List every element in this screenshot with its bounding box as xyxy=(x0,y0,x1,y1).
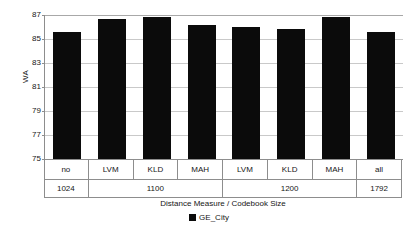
x-axis-distance-measure-band: noLVMKLDMAHLVMKLDMAHall xyxy=(44,160,402,180)
x-axis-category-label: KLD xyxy=(268,160,313,179)
x-axis-category-label: MAH xyxy=(313,160,358,179)
bar-cell xyxy=(45,15,90,159)
bar xyxy=(367,32,395,159)
bar-cell xyxy=(224,15,269,159)
bar-chart: WA 87858381797775 noLVMKLDMAHLVMKLDMAHal… xyxy=(0,0,418,229)
bar-cell xyxy=(269,15,314,159)
x-axis-group-label: 1024 xyxy=(44,180,89,197)
x-axis-category-label: KLD xyxy=(134,160,179,179)
legend-swatch-ge-city xyxy=(189,214,196,221)
y-axis-tick-label: 87 xyxy=(15,11,41,19)
bar-cell xyxy=(179,15,224,159)
bar xyxy=(232,27,260,159)
y-axis-tick-label: 77 xyxy=(15,131,41,139)
bar-cell xyxy=(358,15,403,159)
chart-legend: GE_City xyxy=(0,213,418,222)
x-axis-category-label: LVM xyxy=(223,160,268,179)
y-axis-tick-label: 75 xyxy=(15,155,41,163)
y-axis-tick-label: 79 xyxy=(15,107,41,115)
bar xyxy=(322,17,350,159)
y-axis-tick-label: 85 xyxy=(15,35,41,43)
bar-cell xyxy=(135,15,180,159)
x-axis-category-label: no xyxy=(44,160,89,179)
x-axis-category-label: MAH xyxy=(178,160,223,179)
bar xyxy=(53,32,81,159)
legend-label-ge-city: GE_City xyxy=(199,213,229,222)
x-axis-group-label: 1100 xyxy=(89,180,223,197)
y-axis-tick-label: 83 xyxy=(15,59,41,67)
x-axis-title: Distance Measure / Codebook Size xyxy=(44,199,402,208)
y-axis-tick-label: 81 xyxy=(15,83,41,91)
y-axis-tick-labels: 87858381797775 xyxy=(10,0,41,229)
bar xyxy=(143,17,171,159)
x-axis-category-label: LVM xyxy=(89,160,134,179)
bar xyxy=(98,19,126,159)
bar-series-ge-city xyxy=(45,15,403,159)
x-axis-group-label: 1200 xyxy=(223,180,357,197)
x-axis-category-label: all xyxy=(357,160,402,179)
bar-cell xyxy=(314,15,359,159)
x-axis-group-label: 1792 xyxy=(357,180,402,197)
bar-cell xyxy=(90,15,135,159)
bar xyxy=(277,29,305,159)
plot-area xyxy=(44,15,403,160)
bar xyxy=(188,25,216,159)
x-axis-codebook-size-band: 1024110012001792 xyxy=(44,180,402,198)
